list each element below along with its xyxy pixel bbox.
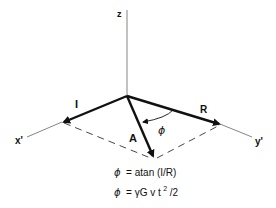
vector-A-label: A xyxy=(129,132,137,144)
equation-1-lhs: ϕ xyxy=(114,167,121,178)
equation-2-rhs-tail: /2 xyxy=(170,187,179,198)
vector-diagram: z x' y' I R A ϕ ϕ = atan (I/R) ϕ = γG v … xyxy=(0,0,276,208)
angle-arc xyxy=(143,110,173,122)
x-axis xyxy=(27,122,62,137)
vector-A-arrow xyxy=(127,96,153,156)
vector-I-arrow xyxy=(64,96,127,122)
x-axis-label: x' xyxy=(15,135,23,146)
dashed-line-left xyxy=(64,123,153,159)
y-axis xyxy=(220,124,252,137)
equation-2-lhs: ϕ xyxy=(114,187,121,198)
equation-2-rhs-main: = γG v t xyxy=(126,187,161,198)
vector-I-label: I xyxy=(75,98,78,110)
equation-2-superscript: 2 xyxy=(163,185,167,192)
equation-1: ϕ = atan (I/R) xyxy=(114,167,176,178)
equation-2: ϕ = γG v t 2 /2 xyxy=(114,182,179,198)
angle-phi-label: ϕ xyxy=(158,124,165,137)
vector-R-label: R xyxy=(200,104,208,115)
z-axis-label: z xyxy=(117,9,122,19)
y-axis-label: y' xyxy=(255,136,263,147)
equation-1-rhs: = atan (I/R) xyxy=(126,167,176,178)
dashed-line-right xyxy=(157,125,220,158)
